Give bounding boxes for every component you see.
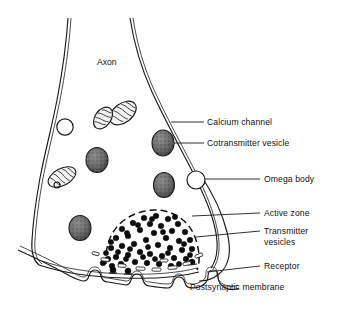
omega-body-group bbox=[187, 171, 205, 189]
transmitter-vesicles-cluster bbox=[100, 213, 195, 269]
cotransmitter-vesicle-texture bbox=[154, 173, 175, 198]
diagram-canvas: Axon Calcium channel Cotransmitter vesic… bbox=[0, 0, 338, 311]
mitochondrion-outline bbox=[90, 104, 117, 133]
label-transmitter-vesicles-line2: vesicles bbox=[264, 237, 295, 247]
axon-membrane-group bbox=[32, 18, 230, 281]
mitochondrion-2 bbox=[90, 104, 117, 133]
cotransmitter-vesicle-2 bbox=[152, 130, 174, 156]
cotransmitter-vesicle-texture bbox=[86, 148, 108, 173]
cotransmitter-vesicle-texture bbox=[69, 216, 91, 241]
label-active-zone: Active zone bbox=[264, 208, 310, 218]
synapse-diagram: Axon Calcium channel Cotransmitter vesic… bbox=[0, 0, 338, 311]
leader-receptor bbox=[207, 266, 260, 272]
cotransmitter-vesicle-4 bbox=[69, 216, 91, 241]
calcium-channel-left bbox=[57, 119, 73, 135]
label-postsynaptic-membrane: Postsynaptic membrane bbox=[190, 282, 284, 292]
label-cotransmitter-vesicle: Cotransmitter vesicle bbox=[207, 138, 289, 148]
cotransmitter-vesicle-3 bbox=[154, 173, 175, 198]
axon-membrane-left-inner bbox=[35, 18, 71, 264]
omega-body-circle bbox=[187, 171, 205, 189]
label-calcium-channel: Calcium channel bbox=[207, 117, 272, 127]
leader-active-zone bbox=[192, 213, 260, 216]
mitochondrion-outline bbox=[45, 162, 79, 191]
label-receptor: Receptor bbox=[264, 261, 300, 271]
calcium-channel-circle bbox=[57, 119, 73, 135]
terminal-outer-contour bbox=[199, 174, 229, 281]
cotransmitter-vesicle-1 bbox=[86, 148, 108, 173]
label-axon: Axon bbox=[97, 57, 117, 67]
label-omega-body: Omega body bbox=[264, 174, 315, 184]
axon-membrane-left-outer bbox=[32, 18, 68, 265]
mitochondrion-3 bbox=[45, 162, 79, 191]
cotransmitter-vesicle-texture bbox=[152, 130, 174, 156]
label-transmitter-vesicles-line1: Transmitter bbox=[264, 226, 308, 236]
